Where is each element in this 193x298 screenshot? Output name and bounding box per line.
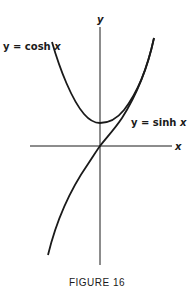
cosh-label-var: x: [53, 41, 61, 52]
figure-caption: FIGURE 16: [69, 277, 125, 288]
figure-16: y x y = cosh x y = sinh x FIGURE 16: [0, 0, 193, 298]
sinh-label: y = sinh x: [131, 117, 187, 128]
sinh-label-var: x: [179, 117, 187, 128]
sinh-label-prefix: y = sinh: [131, 117, 180, 128]
cosh-label: y = cosh x: [3, 41, 61, 52]
x-axis-label: x: [174, 141, 182, 152]
cosh-curve: [52, 38, 154, 123]
cosh-label-prefix: y = cosh: [3, 41, 54, 52]
y-axis-label: y: [97, 14, 104, 25]
